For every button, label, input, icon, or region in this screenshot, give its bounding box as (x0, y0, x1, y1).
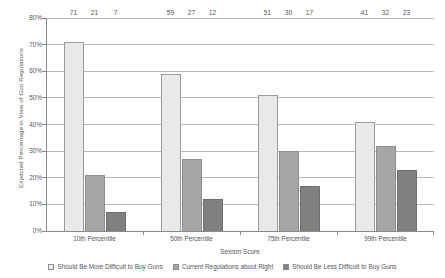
y-axis-tick-label: 40% (0, 121, 42, 127)
bar[interactable]: 51 (258, 95, 278, 231)
plot-area: 0%10%20%30%40%50%60%70%80% 7121759271251… (46, 18, 434, 231)
bar[interactable]: 30 (279, 151, 299, 231)
y-axis-tick-label: 80% (0, 15, 42, 21)
x-axis-tick-label: 10th Percentile (46, 236, 143, 242)
category-separator-tick (433, 231, 434, 235)
x-axis-title: Sexism Score (46, 249, 434, 255)
legend-label: Should Be Less Difficult to Buy Guns (292, 264, 396, 270)
bar-value-label: 17 (306, 10, 313, 17)
bar-value-label: 21 (91, 10, 98, 17)
bar[interactable]: 23 (397, 170, 417, 231)
bar-slot: 59 (161, 18, 181, 231)
bar-value-label: 59 (167, 10, 174, 17)
bar-slot: 23 (397, 18, 417, 231)
y-axis-tick-label: 60% (0, 68, 42, 74)
bar-value-label: 51 (264, 10, 271, 17)
bar[interactable]: 27 (182, 159, 202, 231)
bar-value-label: 7 (114, 10, 118, 17)
bar-group: 592712 (143, 18, 240, 231)
y-axis-tick-label: 50% (0, 95, 42, 101)
bar-value-label: 71 (70, 10, 77, 17)
legend-item[interactable]: Should Be More Difficult to Buy Guns (48, 264, 162, 270)
y-axis-tick-label: 70% (0, 41, 42, 47)
bar-value-label: 27 (188, 10, 195, 17)
bar-slot: 21 (85, 18, 105, 231)
y-axis-tick-label: 20% (0, 175, 42, 181)
bar[interactable]: 32 (376, 146, 396, 231)
x-axis-tick-labels: 10th Percentile50th Percentile75th Perce… (46, 236, 434, 242)
bar-slot: 17 (300, 18, 320, 231)
y-axis-tick-label: 30% (0, 148, 42, 154)
bar-group: 513017 (240, 18, 337, 231)
bar[interactable]: 12 (203, 199, 223, 231)
bar-slot: 7 (106, 18, 126, 231)
bar-slot: 71 (64, 18, 84, 231)
x-axis-tick-label: 99th Percentile (337, 236, 434, 242)
legend-item[interactable]: Current Regulations about Right (173, 264, 273, 270)
bar[interactable]: 59 (161, 74, 181, 231)
legend-label: Current Regulations about Right (182, 264, 273, 270)
category-separator-tick (143, 231, 144, 235)
bar-slot: 27 (182, 18, 202, 231)
bar-value-label: 23 (403, 10, 410, 17)
bar-chart-figure: Expected Percentage in View of Gun Regul… (0, 0, 445, 278)
bar-value-label: 12 (209, 10, 216, 17)
legend-swatch (48, 264, 54, 270)
y-axis-tick-label: 10% (0, 201, 42, 207)
legend-label: Should Be More Difficult to Buy Guns (57, 264, 162, 270)
category-separator-tick (337, 231, 338, 235)
bar-groups: 71217592712513017413223 (46, 18, 434, 231)
legend-item[interactable]: Should Be Less Difficult to Buy Guns (283, 264, 396, 270)
x-axis-tick-label: 75th Percentile (240, 236, 337, 242)
bar-slot: 32 (376, 18, 396, 231)
bar[interactable]: 17 (300, 186, 320, 231)
bar-group: 71217 (46, 18, 143, 231)
category-separator-tick (240, 231, 241, 235)
bar-slot: 12 (203, 18, 223, 231)
bar-value-label: 30 (285, 10, 292, 17)
bar-value-label: 32 (382, 10, 389, 17)
bar-group: 413223 (337, 18, 434, 231)
bar-value-label: 41 (361, 10, 368, 17)
bar[interactable]: 21 (85, 175, 105, 231)
y-axis-tick-label: 0% (0, 228, 42, 234)
bar[interactable]: 71 (64, 42, 84, 231)
chart-legend: Should Be More Difficult to Buy GunsCurr… (0, 264, 445, 270)
x-axis-tick-label: 50th Percentile (143, 236, 240, 242)
bar-slot: 41 (355, 18, 375, 231)
bar[interactable]: 41 (355, 122, 375, 231)
bar-slot: 51 (258, 18, 278, 231)
legend-swatch (173, 264, 179, 270)
bar[interactable]: 7 (106, 212, 126, 231)
y-axis-title: Expected Percentage in View of Gun Regul… (14, 18, 28, 218)
legend-swatch (283, 264, 289, 270)
bar-slot: 30 (279, 18, 299, 231)
